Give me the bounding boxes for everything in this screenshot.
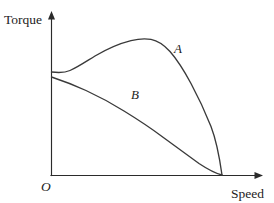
curve-a-label: A xyxy=(174,42,182,55)
speed-axis-arrowhead xyxy=(255,172,264,179)
speed-axis-label: Speed xyxy=(231,187,264,201)
curve-b-label: B xyxy=(131,88,139,101)
curve-a-path xyxy=(52,39,223,175)
torque-axis-label: Torque xyxy=(4,13,42,27)
torque-speed-figure: Torque Speed O A B xyxy=(0,0,274,203)
torque-axis-arrowhead xyxy=(48,11,55,20)
origin-label: O xyxy=(41,180,51,194)
